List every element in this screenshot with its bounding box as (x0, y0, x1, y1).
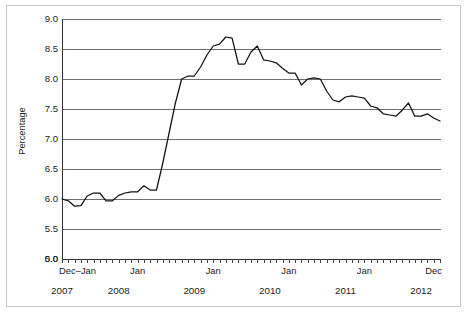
x-axis-tick (100, 259, 101, 263)
x-axis-tick (289, 259, 290, 263)
x-axis-tick (346, 259, 347, 263)
x-year-label: 2012 (410, 285, 432, 296)
x-tick-label: Jan (130, 265, 145, 276)
y-tick-label-0-0: 0.0 (24, 254, 58, 264)
x-axis-tick (270, 259, 271, 263)
x-axis-tick (150, 259, 151, 263)
x-axis-tick (364, 259, 365, 263)
x-tick-label: Jan (206, 265, 221, 276)
x-axis-tick (440, 259, 441, 263)
x-axis-tick (421, 259, 422, 263)
x-axis-tick (213, 259, 214, 263)
y-tick-label-9-0: 9.0 (24, 14, 58, 24)
x-axis-tick (264, 259, 265, 263)
x-axis-tick (371, 259, 372, 263)
x-axis-tick (396, 259, 397, 263)
line-chart: 9.0 8.5 8.0 7.5 7.0 6.5 6.0 5.5 5.0 0.0 … (0, 0, 467, 313)
x-axis-tick (358, 259, 359, 263)
x-axis-tick (314, 259, 315, 263)
x-axis-tick (125, 259, 126, 263)
y-tick-label-8-0: 8.0 (24, 74, 58, 84)
x-axis-tick (112, 259, 113, 263)
x-axis-tick (226, 259, 227, 263)
x-axis-tick (194, 259, 195, 263)
y-tick-label-7-5: 7.5 (24, 104, 58, 114)
x-axis-tick (333, 259, 334, 263)
x-axis-tick (75, 259, 76, 263)
y-tick-label-8-5: 8.5 (24, 44, 58, 54)
x-axis-tick (81, 259, 82, 263)
x-axis-tick (119, 259, 120, 263)
x-axis-tick (434, 259, 435, 263)
x-axis-tick (308, 259, 309, 263)
x-year-label: 2009 (183, 285, 205, 296)
y-tick-label-5-5: 5.5 (24, 224, 58, 234)
x-axis-tick (182, 259, 183, 263)
x-axis-tick (377, 259, 378, 263)
x-axis-tick (251, 259, 252, 263)
x-axis-tick (87, 259, 88, 263)
x-axis-tick (276, 259, 277, 263)
x-tick-label: Dec (425, 265, 442, 276)
y-tick-label-7-0: 7.0 (24, 134, 58, 144)
y-tick-label-6-5: 6.5 (24, 164, 58, 174)
x-axis-tick (295, 259, 296, 263)
x-axis-tick (232, 259, 233, 263)
y-tick-label-6-0: 6.0 (24, 194, 58, 204)
x-tick-label: Jan (281, 265, 296, 276)
x-axis-tick (402, 259, 403, 263)
x-tick-label: Jan (357, 265, 372, 276)
x-axis-tick (301, 259, 302, 263)
x-axis-tick (62, 259, 63, 263)
x-year-label: 2007 (51, 285, 73, 296)
x-axis-tick (390, 259, 391, 263)
x-axis-tick (339, 259, 340, 263)
x-axis-tick (131, 259, 132, 263)
figure-page: 9.0 8.5 8.0 7.5 7.0 6.5 6.0 5.5 5.0 0.0 … (0, 0, 467, 313)
x-axis-tick (383, 259, 384, 263)
x-axis-tick (68, 259, 69, 263)
x-axis-tick (201, 259, 202, 263)
x-year-label: 2010 (259, 285, 281, 296)
x-axis-tick (207, 259, 208, 263)
series-percentage-path (62, 37, 440, 206)
x-axis-tick (327, 259, 328, 263)
x-axis-tick (106, 259, 107, 263)
x-tick-label: Dec–Jan (59, 265, 96, 276)
x-axis-tick (238, 259, 239, 263)
x-axis-tick (283, 259, 284, 263)
x-axis-tick (427, 259, 428, 263)
x-axis-tick (409, 259, 410, 263)
x-axis-tick (157, 259, 158, 263)
x-axis-tick (188, 259, 189, 263)
x-axis-tick (175, 259, 176, 263)
data-series-line (62, 19, 440, 259)
x-axis-tick (415, 259, 416, 263)
x-year-label: 2011 (335, 285, 356, 296)
x-axis-tick (257, 259, 258, 263)
x-axis-tick (138, 259, 139, 263)
y-axis-title: Percentage (17, 91, 27, 171)
x-axis-tick (169, 259, 170, 263)
x-axis-tick (320, 259, 321, 263)
x-axis-tick (220, 259, 221, 263)
x-axis-tick (144, 259, 145, 263)
x-axis-tick (94, 259, 95, 263)
x-year-label: 2008 (108, 285, 130, 296)
x-axis-tick (163, 259, 164, 263)
x-axis-tick (245, 259, 246, 263)
x-axis-tick (352, 259, 353, 263)
